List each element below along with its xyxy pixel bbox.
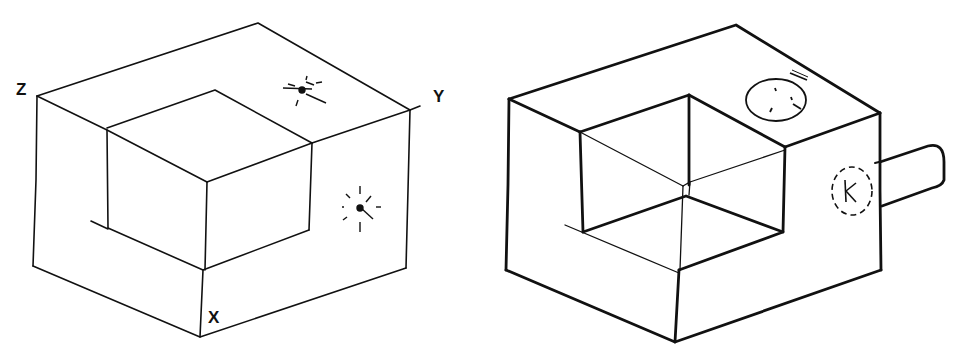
right-block-thin-lines bbox=[565, 132, 785, 273]
circle-top-icon bbox=[746, 70, 808, 121]
axis-label-y: Y bbox=[433, 88, 444, 105]
drawing-canvas bbox=[0, 0, 966, 357]
sun-mark-top-icon bbox=[283, 76, 326, 106]
axis-label-z: Z bbox=[16, 81, 26, 98]
axis-label-x: X bbox=[208, 309, 219, 326]
right-block-figure bbox=[506, 25, 881, 342]
left-block-figure bbox=[33, 23, 420, 337]
sun-mark-right-icon bbox=[342, 186, 381, 232]
peg-icon bbox=[875, 145, 944, 206]
dashed-circle-k-icon bbox=[832, 167, 872, 215]
